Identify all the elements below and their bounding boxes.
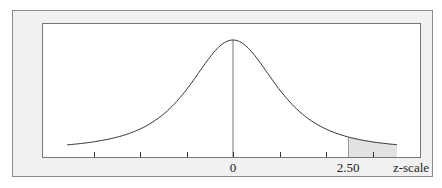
axis-label-z-scale: z-scale bbox=[393, 160, 429, 175]
tick-label-2-50: 2.50 bbox=[337, 160, 360, 175]
tick-label-zero: 0 bbox=[230, 160, 237, 175]
normal-curve-figure: 0 2.50 z-scale bbox=[0, 0, 442, 188]
plot-area bbox=[43, 24, 421, 158]
